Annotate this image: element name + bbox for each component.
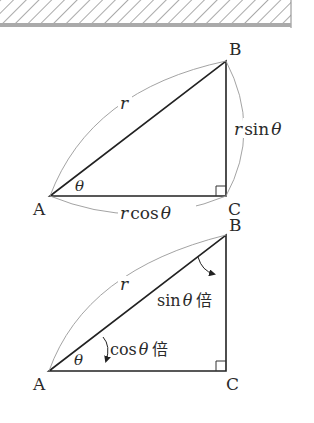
label-cos-times: cosθ倍	[110, 340, 168, 359]
label-theta2: θ	[74, 351, 83, 369]
label-a1: A	[32, 199, 46, 219]
label-c2: C	[226, 374, 239, 394]
label-theta1: θ	[75, 177, 84, 195]
label-r1: r	[120, 93, 129, 113]
label-rcos: rcosθ	[120, 203, 171, 223]
label-sin-times: sinθ倍	[157, 291, 212, 310]
label-b1: B	[229, 39, 242, 59]
triangle-2: B A C r θ sinθ倍 cosθ倍	[32, 215, 242, 394]
hatched-ceiling	[0, 0, 291, 28]
label-r2: r	[120, 274, 129, 294]
label-a2: A	[32, 374, 46, 394]
label-rsin: rsinθ	[234, 119, 282, 139]
triangle-1: B A C r θ rsinθ rcosθ	[32, 39, 305, 223]
trig-diagram: B A C r θ rsinθ rcosθ B A C r θ sinθ倍 co…	[0, 0, 314, 423]
label-b2: B	[229, 215, 242, 235]
